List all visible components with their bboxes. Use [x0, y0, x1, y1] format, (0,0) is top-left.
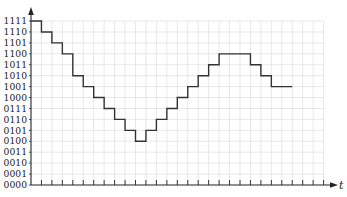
y-tick-label: 1110	[4, 26, 28, 37]
x-ticks	[41, 180, 323, 185]
y-tick-labels: 0000000100100011010001010110011110001001…	[4, 15, 31, 190]
y-tick-label: 1101	[4, 37, 27, 48]
y-tick-label: 0100	[4, 135, 28, 146]
t-axis-label: t	[339, 179, 344, 192]
t-axis-arrow-icon	[330, 182, 338, 188]
y-tick-label: 0000	[4, 179, 28, 190]
step-signal-line	[31, 21, 292, 141]
y-tick-label: 0010	[4, 157, 28, 168]
y-tick-label: 0111	[4, 103, 27, 114]
y-tick-label: 1011	[4, 59, 27, 70]
y-tick-label: 0011	[4, 146, 27, 157]
y-tick-label: 0110	[4, 114, 28, 125]
y-tick-label: 0101	[4, 125, 27, 136]
step-chart: 0000000100100011010001010110011110001001…	[0, 0, 347, 197]
y-axis-arrow-icon	[28, 7, 34, 15]
y-tick-label: 1010	[4, 70, 28, 81]
y-tick-label: 0001	[4, 168, 27, 179]
y-tick-label: 1111	[4, 15, 27, 26]
y-tick-label: 1100	[4, 48, 28, 59]
y-tick-label: 1000	[4, 92, 28, 103]
y-tick-label: 1001	[4, 81, 27, 92]
